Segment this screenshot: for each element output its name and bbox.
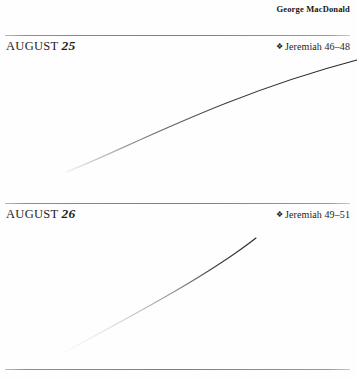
rule-above-august-26: [5, 203, 350, 204]
floret-bullet-icon: ❖: [276, 210, 283, 219]
date-day-number: 25: [62, 38, 76, 53]
date-month-label: AUGUST: [6, 39, 59, 53]
entry-body-august-25: [6, 56, 350, 196]
rule-page-bottom: [5, 369, 350, 370]
scripture-reading-august-26: ❖Jeremiah 49–51: [276, 209, 350, 220]
entry-heading-august-25: AUGUST25 ❖Jeremiah 46–48: [6, 38, 350, 54]
date-month-label: AUGUST: [6, 207, 59, 221]
scanned-page: George MacDonald AUGUST25 ❖Jeremiah 46–4…: [0, 0, 357, 380]
date-august-26: AUGUST26: [6, 206, 75, 222]
scripture-reading-label: Jeremiah 46–48: [285, 41, 350, 52]
date-august-25: AUGUST25: [6, 38, 75, 54]
date-day-number: 26: [62, 206, 76, 221]
rule-above-august-25: [5, 35, 350, 36]
running-head-author: George MacDonald: [277, 4, 350, 14]
scripture-reading-august-25: ❖Jeremiah 46–48: [276, 41, 350, 52]
entry-body-august-26: [6, 224, 350, 364]
floret-bullet-icon: ❖: [276, 42, 283, 51]
scripture-reading-label: Jeremiah 49–51: [285, 209, 350, 220]
entry-heading-august-26: AUGUST26 ❖Jeremiah 49–51: [6, 206, 350, 222]
